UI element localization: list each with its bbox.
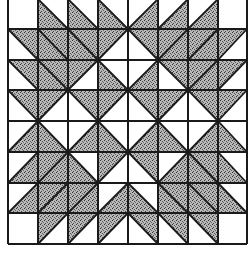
quilt-pattern bbox=[0, 0, 249, 253]
